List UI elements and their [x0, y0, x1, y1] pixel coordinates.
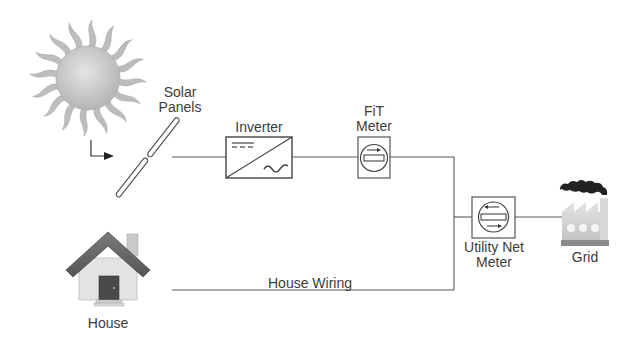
sunlight-arrow-icon [91, 140, 114, 160]
inverter-icon [226, 137, 292, 178]
house-wiring-label: House Wiring [255, 276, 365, 291]
utility-net-meter-label: Utility Net Meter [458, 240, 530, 270]
grid-label: Grid [560, 250, 610, 265]
grid-factory-icon [560, 180, 609, 246]
fit-meter-label-line1: FiT [344, 104, 404, 119]
house-icon [66, 232, 150, 306]
diagram-canvas [0, 0, 642, 349]
inverter-label: Inverter [226, 120, 292, 135]
utility-net-meter-icon [472, 197, 515, 238]
solar-panels-label-line2: Panels [150, 100, 210, 115]
house-label: House [78, 316, 138, 331]
solar-panel-icon [115, 117, 180, 198]
utility-net-meter-label-line1: Utility Net [458, 240, 530, 255]
fit-meter-label-line2: Meter [344, 119, 404, 134]
sun-icon [30, 20, 146, 136]
solar-panels-label-line1: Solar [150, 85, 210, 100]
solar-panels-label: Solar Panels [150, 85, 210, 115]
wire-fit-meter-to-bus [390, 157, 454, 290]
fit-meter-icon [358, 137, 390, 178]
utility-net-meter-label-line2: Meter [458, 255, 530, 270]
fit-meter-label: FiT Meter [344, 104, 404, 134]
